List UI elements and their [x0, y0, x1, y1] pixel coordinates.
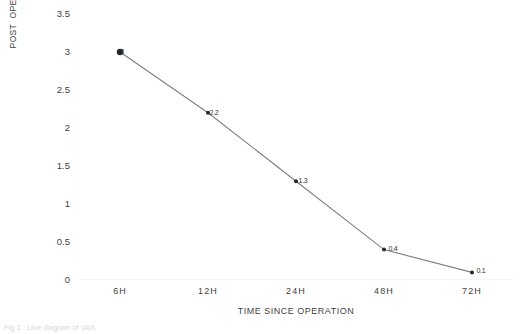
- y-tick-label: 3: [34, 47, 70, 57]
- x-tick-label: 72H: [462, 286, 482, 296]
- vas-pain-line-chart: POST OPERATIVE VAS PAIN SCALE 00.511.522…: [0, 0, 526, 334]
- data-point-label: 0.4: [389, 244, 398, 251]
- y-axis-tick-labels: 00.511.522.533.5: [26, 0, 70, 334]
- x-tick-label: 48H: [374, 286, 394, 296]
- y-tick-label: 1.5: [34, 161, 70, 171]
- y-tick-label: 1: [34, 199, 70, 209]
- data-point-marker: [294, 179, 298, 183]
- data-point-marker: [470, 270, 474, 274]
- data-point-marker: [382, 248, 386, 252]
- y-tick-label: 0.5: [34, 237, 70, 247]
- data-point-label: 2.2: [210, 108, 219, 115]
- y-tick-label: 2.5: [34, 85, 70, 95]
- x-axis-title: TIME SINCE OPERATION: [76, 306, 516, 316]
- y-tick-label: 2: [34, 123, 70, 133]
- series-line: [120, 52, 472, 272]
- series-markers: [117, 49, 474, 275]
- y-tick-label: 3.5: [34, 9, 70, 19]
- y-axis-title: POST OPERATIVE VAS PAIN SCALE: [8, 0, 22, 80]
- x-axis-tick-labels: 6H12H24H48H72H: [76, 286, 516, 300]
- x-tick-label: 12H: [198, 286, 218, 296]
- x-tick-label: 6H: [113, 286, 127, 296]
- x-tick-label: 24H: [286, 286, 306, 296]
- figure-caption: Fig 1 : Line diagram of VAS: [4, 323, 95, 332]
- plot-area: 32.21.30.40.1: [76, 14, 516, 280]
- y-tick-label: 0: [34, 275, 70, 285]
- data-point-label: 3: [120, 48, 124, 55]
- data-point-label: 0.1: [477, 267, 486, 274]
- data-point-label: 1.3: [299, 177, 308, 184]
- plot-svg: [76, 14, 516, 280]
